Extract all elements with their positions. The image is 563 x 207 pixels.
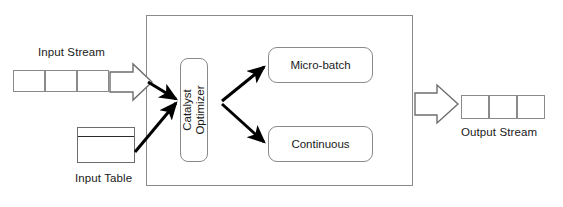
input-table-shape [77, 127, 135, 163]
catalyst-optimizer-line1: Catalyst [181, 85, 194, 134]
catalyst-optimizer-line2: Optimizer [194, 85, 207, 134]
output-hollow-arrow [415, 85, 458, 123]
input-table-label: Input Table [75, 172, 132, 184]
catalyst-optimizer-box: Catalyst Optimizer [180, 58, 208, 162]
continuous-label: Continuous [291, 138, 349, 150]
input-stream-label: Input Stream [38, 46, 105, 58]
micro-batch-label: Micro-batch [290, 59, 350, 71]
input-stream-cell [45, 70, 77, 92]
input-table-header-rule [78, 136, 134, 137]
continuous-box: Continuous [268, 126, 373, 162]
diagram-canvas: Input Stream Input Table Catalyst Optimi… [0, 0, 563, 207]
catalyst-optimizer-label: Catalyst Optimizer [181, 85, 207, 134]
input-stream-cell [77, 70, 109, 92]
output-stream-cell [461, 95, 489, 119]
input-stream-cell [13, 70, 45, 92]
micro-batch-box: Micro-batch [268, 47, 373, 83]
output-stream-cell [517, 95, 545, 119]
output-stream-label: Output Stream [461, 126, 537, 138]
output-stream-cell [489, 95, 517, 119]
